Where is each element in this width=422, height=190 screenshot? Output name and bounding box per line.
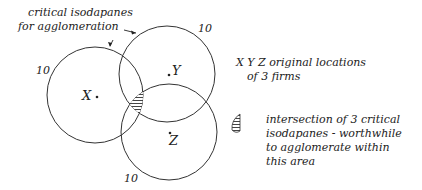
legend-hatch-icon [232,114,240,132]
legend-firms-line1: X Y Z original locations [236,56,366,69]
isodapane-value-x: 10 [36,64,50,77]
firm-y-point [168,74,171,77]
legend-area-line4: this area [266,155,315,168]
legend-area-line3: to agglomerate within [266,141,390,154]
firm-x-label: X [82,89,91,102]
annotation-line2: for agglomeration [18,20,119,33]
isodapane-value-y: 10 [198,22,212,35]
legend-firms-line2: of 3 firms [247,70,300,83]
legend-area-line2: isodapanes - worthwhile [266,127,402,140]
legend-area-line1: intersection of 3 critical [266,113,400,126]
isodapane-value-z: 10 [124,172,138,185]
arrow-to-circle-y [124,30,136,35]
firm-z-label: Z [169,134,178,147]
arrow-to-circle-x [108,40,113,47]
firm-x-point [96,96,99,99]
isodapane-circle-x [47,47,143,143]
annotation-line1: critical isodapanes [28,6,133,19]
firm-y-label: Y [172,64,181,77]
